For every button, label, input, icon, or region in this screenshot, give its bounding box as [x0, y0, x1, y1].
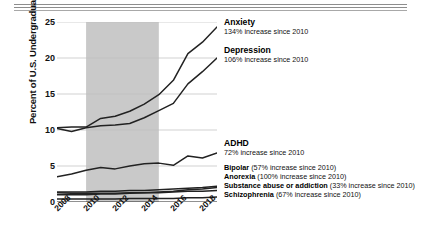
chart-page: Percent of U.S. Undergraduates 25 20 15 …: [0, 0, 421, 244]
annotation-schizophrenia-title: Schizophrenia: [224, 190, 274, 199]
header-rule-middle: [14, 7, 407, 8]
header-rule-bottom: [14, 10, 407, 11]
annotation-adhd-detail: 72% increase since 2010: [224, 149, 304, 158]
chart-canvas: [57, 22, 217, 202]
y-tick-10: 10: [29, 126, 55, 135]
annotation-depression-detail: 106% increase since 2010: [224, 56, 308, 65]
y-tick-25: 25: [29, 18, 55, 27]
annotation-bipolar-detail: (57% increase since 2010): [251, 163, 336, 172]
annotation-substance-abuse-detail: (33% increase since 2010): [330, 181, 415, 190]
annotation-depression: Depression 106% increase since 2010: [224, 45, 308, 65]
annotation-schizophrenia-detail: (67% increase since 2010): [276, 190, 361, 199]
annotation-adhd: ADHD 72% increase since 2010: [224, 138, 304, 158]
shaded-region: [86, 22, 159, 202]
annotation-anxiety-detail: 134% increase since 2010: [224, 28, 308, 37]
annotation-substance-abuse-title: Substance abuse or addiction: [224, 181, 328, 190]
annotation-bipolar-title: Bipolar: [224, 163, 249, 172]
y-tick-15: 15: [29, 90, 55, 99]
plot-area: [57, 22, 217, 202]
annotation-adhd-title: ADHD: [224, 138, 304, 148]
annotation-anorexia-title: Anorexia: [224, 172, 255, 181]
y-tick-20: 20: [29, 54, 55, 63]
annotation-anorexia-detail: (100% increase since 2010): [257, 172, 346, 181]
annotation-depression-title: Depression: [224, 45, 308, 55]
y-tick-5: 5: [29, 162, 55, 171]
x-tick-2008: 2008: [52, 193, 72, 213]
annotation-anxiety-title: Anxiety: [224, 17, 308, 27]
header-rule-top: [14, 4, 407, 5]
annotation-schizophrenia: Schizophrenia (67% increase since 2010): [224, 191, 361, 200]
annotation-anxiety: Anxiety 134% increase since 2010: [224, 17, 308, 37]
